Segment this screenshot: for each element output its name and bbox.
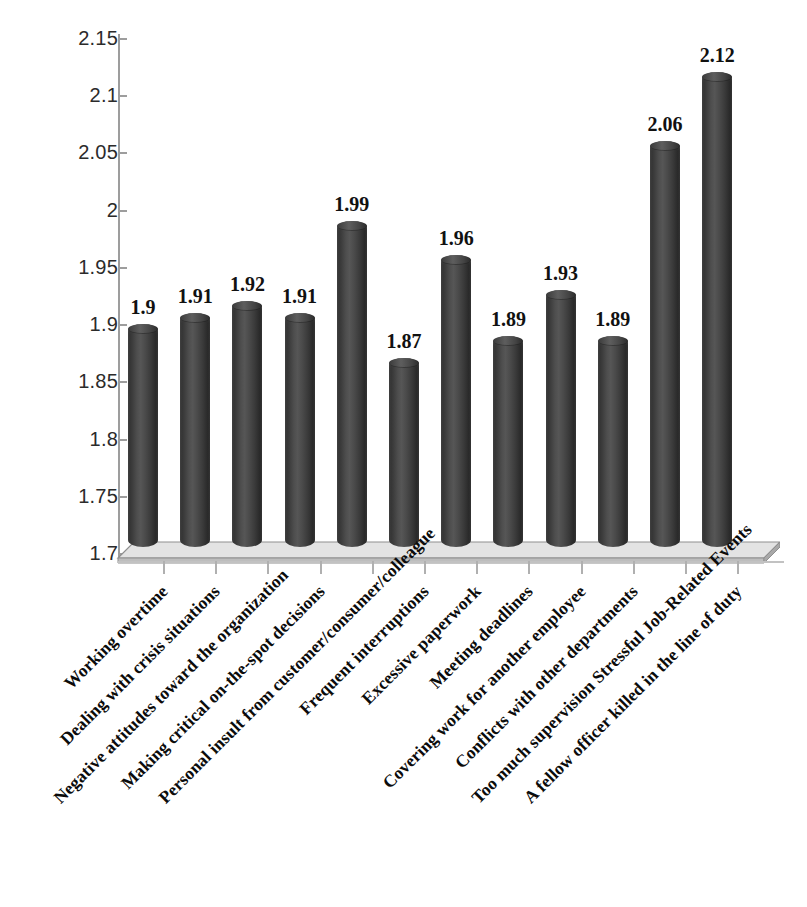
plot-area: 1.91.911.921.911.991.871.961.891.931.892…	[120, 34, 780, 554]
x-tick-mark	[372, 561, 374, 574]
y-tick-label: 2.1	[52, 84, 118, 107]
y-tick-label: 1.75	[52, 484, 118, 507]
x-tick-mark	[528, 561, 530, 574]
x-tick-mark	[633, 561, 635, 574]
bar-value-label: 1.89	[473, 308, 543, 331]
x-tick-mark	[737, 561, 739, 574]
bar	[598, 336, 628, 547]
bar-value-label: 1.93	[526, 262, 596, 285]
bar	[337, 221, 367, 547]
y-tick-label: 1.85	[52, 370, 118, 393]
bar-value-label: 1.96	[421, 227, 491, 250]
y-tick-label: 2	[52, 198, 118, 221]
bar-value-label: 1.87	[369, 330, 439, 353]
bar	[389, 358, 419, 547]
y-tick-label: 2.15	[52, 27, 118, 50]
x-tick-mark	[163, 561, 165, 574]
bar	[702, 72, 732, 547]
bar-value-label: 2.06	[630, 113, 700, 136]
y-tick-label: 1.7	[52, 542, 118, 565]
x-tick-mark	[476, 561, 478, 574]
x-tick-mark	[424, 561, 426, 574]
x-tick-mark	[215, 561, 217, 574]
bar	[128, 324, 158, 547]
x-tick-mark	[581, 561, 583, 574]
bar	[650, 141, 680, 547]
bar	[493, 336, 523, 547]
bar-value-label: 1.99	[317, 193, 387, 216]
bar	[180, 313, 210, 547]
x-tick-mark	[320, 561, 322, 574]
y-tick-label: 1.95	[52, 255, 118, 278]
bar-value-label: 1.91	[265, 285, 335, 308]
bar	[441, 255, 471, 547]
y-tick-label: 2.05	[52, 141, 118, 164]
bar	[232, 301, 262, 547]
bar-value-label: 2.12	[682, 44, 752, 67]
bar	[546, 290, 576, 547]
bar-value-label: 1.89	[578, 308, 648, 331]
bar-chart: 2.152.12.0521.951.91.851.81.751.7 1.91.9…	[0, 0, 807, 907]
bar	[285, 313, 315, 547]
y-tick-label: 1.8	[52, 427, 118, 450]
